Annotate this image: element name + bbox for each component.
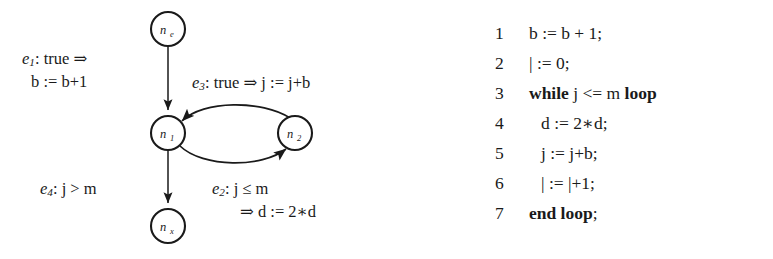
code-token: d := 2∗d; (541, 113, 608, 133)
code-token: j <= m (569, 83, 625, 103)
node-ne[interactable]: n e (151, 12, 185, 46)
node-ne-label: n (160, 23, 166, 37)
node-nx-circle (151, 209, 185, 243)
node-n1-circle (151, 116, 185, 150)
code-line-number: 1 (495, 18, 521, 48)
code-line-text: d := 2∗d; (521, 108, 608, 138)
node-ne-circle (151, 12, 185, 46)
node-nx-label: n (160, 220, 166, 234)
node-nx[interactable]: n x (151, 209, 185, 243)
code-line-text: | := |+1; (521, 168, 595, 198)
code-line-number: 3 (495, 78, 521, 108)
code-line-text: while j <= m loop (521, 78, 657, 108)
code-line: 2| := 0; (495, 48, 773, 78)
edge-label-e1-line2: b := b+1 (22, 71, 87, 93)
edge-label-e2: e2: j ≤ m ⇒ d := 2∗d (212, 178, 316, 223)
node-n2-label: n (287, 127, 293, 141)
edge-label-e4-line1: : j > m (53, 179, 97, 198)
code-line-number: 5 (495, 138, 521, 168)
edge-label-e4: e4: j > m (40, 178, 97, 201)
code-line: 7end loop; (495, 198, 773, 228)
code-line: 1b := b + 1; (495, 18, 773, 48)
code-line: 5j := j+b; (495, 138, 773, 168)
node-n1[interactable]: n 1 (151, 116, 185, 150)
code-keyword: while (529, 83, 569, 103)
code-line-text: j := j+b; (521, 138, 598, 168)
code-line-number: 2 (495, 48, 521, 78)
node-nx-subscript: x (169, 226, 174, 236)
node-n1-subscript: 1 (170, 133, 174, 143)
code-line-number: 6 (495, 168, 521, 198)
edge-label-e3-line1: : true ⇒ j := j+b (205, 73, 310, 92)
code-token: | := |+1; (541, 173, 595, 193)
code-keyword: loop (625, 83, 657, 103)
code-keyword: end loop (529, 203, 593, 223)
node-n1-label: n (160, 127, 166, 141)
edge-label-e3: e3: true ⇒ j := j+b (192, 72, 310, 95)
node-n2-circle (278, 116, 312, 150)
code-line: 6| := |+1; (495, 168, 773, 198)
node-ne-subscript: e (170, 29, 174, 39)
code-token: b := b + 1; (529, 23, 602, 43)
code-line-text: | := 0; (521, 48, 570, 78)
code-line-text: b := b + 1; (521, 18, 602, 48)
code-listing: 1b := b + 1;2| := 0;3while j <= m loop4d… (495, 18, 773, 228)
code-line-number: 7 (495, 198, 521, 228)
control-flow-graph: n e n 1 n 2 n x e1: tr (0, 0, 440, 259)
node-n2[interactable]: n 2 (278, 116, 312, 150)
figure-cfg-and-code: n e n 1 n 2 n x e1: tr (0, 0, 773, 259)
edge-label-e2-line2: ⇒ d := 2∗d (212, 201, 316, 223)
code-line-text: end loop; (521, 198, 598, 228)
code-line-number: 4 (495, 108, 521, 138)
edge-label-e1: e1: true ⇒ b := b+1 (22, 48, 87, 93)
code-line: 4d := 2∗d; (495, 108, 773, 138)
code-token: j := j+b; (541, 143, 598, 163)
code-token: | := 0; (529, 53, 570, 73)
code-token: ; (593, 203, 598, 223)
edge-e2-arc (180, 146, 286, 163)
code-line: 3while j <= m loop (495, 78, 773, 108)
edge-label-e1-line1: : true ⇒ (35, 49, 87, 68)
edge-e3-arc (182, 105, 290, 121)
edge-label-e2-line1: : j ≤ m (225, 179, 268, 198)
